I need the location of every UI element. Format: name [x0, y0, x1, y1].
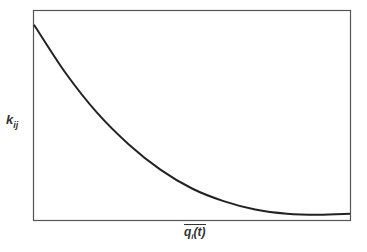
data-curve [34, 25, 350, 215]
y-axis-label: kij [6, 112, 18, 130]
x-axis-label: qi(t) [184, 224, 206, 243]
plot-area [0, 0, 367, 252]
